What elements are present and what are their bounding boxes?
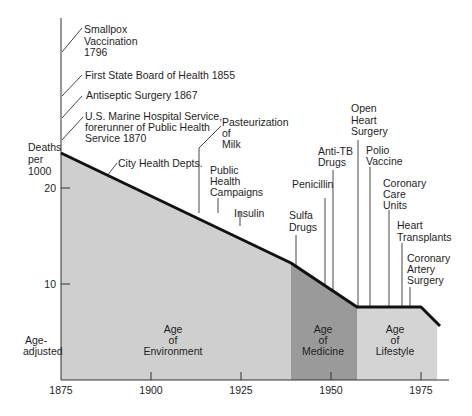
- annotation-smallpox: Smallpox Vaccination 1796: [84, 23, 138, 58]
- svg-text:Pasteurization: Pasteurization: [222, 116, 289, 128]
- svg-text:Sulfa: Sulfa: [289, 209, 313, 221]
- annotation-sulfa: Sulfa Drugs: [289, 209, 317, 233]
- svg-text:Open: Open: [351, 102, 377, 114]
- y-tick-label-20: 20: [44, 182, 56, 194]
- region-medicine-fill: [291, 263, 357, 380]
- x-tick-label-1975: 1975: [409, 384, 433, 396]
- annotation-insulin: Insulin: [234, 207, 265, 219]
- svg-text:1796: 1796: [84, 46, 108, 58]
- annotation-pasteurization: Pasteurization of Milk: [222, 116, 289, 150]
- x-tick-label-1925: 1925: [229, 384, 253, 396]
- annotation-heart-transplants: Heart Transplants: [397, 219, 451, 243]
- svg-text:Drugs: Drugs: [318, 156, 346, 168]
- annotation-penicillin: Penicillin: [292, 178, 334, 190]
- y-axis-label: Deaths per 1000: [28, 141, 61, 177]
- svg-text:Campaigns: Campaigns: [210, 186, 263, 198]
- svg-text:Medicine: Medicine: [302, 345, 344, 357]
- svg-text:Units: Units: [383, 199, 407, 211]
- annotation-polio: Polio Vaccine: [366, 144, 403, 167]
- svg-text:per: per: [28, 153, 44, 165]
- svg-text:Drugs: Drugs: [289, 221, 317, 233]
- annotation-coronary-artery: Coronary Artery Surgery: [407, 252, 451, 286]
- annotation-state-board: First State Board of Health 1855: [85, 69, 235, 81]
- svg-text:Service 1870: Service 1870: [85, 132, 146, 144]
- svg-text:adjusted: adjusted: [23, 345, 63, 357]
- mortality-timeline-chart: 20 10 1875 1900 1925 1950 1975 Deaths pe…: [0, 0, 472, 416]
- svg-text:Milk: Milk: [222, 138, 241, 150]
- svg-text:1000: 1000: [28, 165, 52, 177]
- annotation-public-health: Public Health Campaigns: [210, 164, 263, 198]
- annotation-marine-hospital: U.S. Marine Hospital Service, forerunner…: [85, 110, 222, 144]
- svg-text:Transplants: Transplants: [397, 231, 451, 243]
- y-tick-label-10: 10: [44, 278, 56, 290]
- svg-text:Lifestyle: Lifestyle: [376, 345, 415, 357]
- svg-text:Deaths: Deaths: [28, 141, 61, 153]
- annotation-open-heart: Open Heart Surgery: [351, 102, 389, 137]
- annotation-anti-tb: Anti-TB Drugs: [318, 145, 353, 168]
- x-tick-label-1950: 1950: [319, 384, 343, 396]
- svg-text:Heart: Heart: [397, 219, 423, 231]
- svg-text:Surgery: Surgery: [351, 125, 389, 137]
- svg-text:Vaccine: Vaccine: [366, 155, 403, 167]
- age-adjusted-label: Age- adjusted: [23, 334, 63, 357]
- svg-text:Smallpox: Smallpox: [84, 23, 128, 35]
- annotation-antiseptic: Antiseptic Surgery 1867: [86, 89, 198, 101]
- annotation-coronary-care: Coronary Care Units: [383, 177, 427, 211]
- svg-text:Surgery: Surgery: [407, 274, 445, 286]
- annotation-city-health: City Health Depts.: [118, 157, 203, 169]
- svg-text:Environment: Environment: [144, 345, 203, 357]
- x-tick-label-1900: 1900: [139, 384, 163, 396]
- x-tick-label-1875: 1875: [49, 384, 73, 396]
